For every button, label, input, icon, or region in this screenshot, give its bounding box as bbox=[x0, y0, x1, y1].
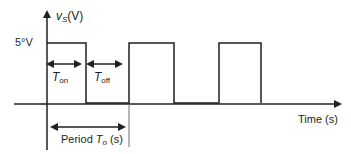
y-axis-label: vS(V) bbox=[56, 10, 83, 24]
level-label: 5°V bbox=[15, 37, 33, 48]
period-var: T bbox=[96, 133, 103, 145]
y-axis-unit: (V) bbox=[67, 9, 83, 23]
t-on-label: Ton bbox=[52, 71, 68, 85]
period-prefix: Period bbox=[61, 133, 96, 145]
period-sub: o bbox=[103, 138, 107, 147]
t-off-sub: off bbox=[101, 76, 110, 85]
t-on-sub: on bbox=[59, 76, 68, 85]
x-axis-label: Time (s) bbox=[298, 114, 338, 125]
period-label: Period To (s) bbox=[61, 134, 123, 147]
period-unit: (s) bbox=[110, 133, 123, 145]
t-off-label: Toff bbox=[94, 71, 110, 85]
pulse-waveform bbox=[47, 43, 261, 103]
